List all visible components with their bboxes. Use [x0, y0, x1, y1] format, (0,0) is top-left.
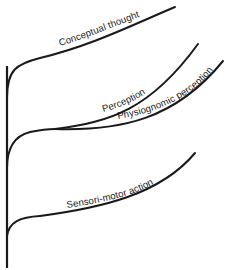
sensori-stem [7, 216, 40, 236]
sensori-motor-action-label: Sensori-motor action [66, 176, 155, 210]
branch-conceptual-thought: Conceptual thought [7, 7, 175, 98]
branch-curve [7, 7, 175, 98]
branch-sensori-motor-action: Sensori-motor action [7, 153, 195, 236]
branching-diagram: Conceptual thought Perception Physiognom… [0, 0, 233, 270]
branch-label: Sensori-motor action [66, 176, 155, 210]
perception-stem [7, 129, 55, 168]
branch-curve [40, 153, 195, 216]
